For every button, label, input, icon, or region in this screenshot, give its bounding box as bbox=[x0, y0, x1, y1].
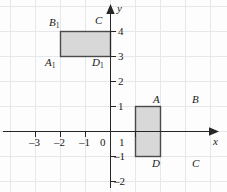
coordinate-plane-figure: y x –3 –2 –1 0 1 4 3 2 1 –1 –2 B1 C A1 D… bbox=[0, 0, 227, 192]
vertex-label-A1-subscript: 1 bbox=[52, 61, 56, 70]
vertex-label-A: A bbox=[153, 94, 160, 105]
vertex-label-D1-base: D bbox=[92, 56, 100, 68]
vertex-label-B: B bbox=[192, 94, 199, 105]
vertex-label-B1: B1 bbox=[49, 17, 59, 28]
y-tick-label-neg1: –1 bbox=[114, 151, 125, 162]
y-tick-label-pos4: 4 bbox=[118, 26, 124, 37]
vertex-label-B1-base: B bbox=[49, 16, 56, 28]
vertex-label-C-upper: C bbox=[95, 15, 102, 26]
y-tick-label-neg2: –2 bbox=[114, 176, 125, 187]
vertex-label-B1-subscript: 1 bbox=[56, 21, 60, 30]
vertex-label-A1: A1 bbox=[45, 57, 55, 68]
y-axis-label: y bbox=[117, 3, 122, 14]
vertex-label-D: D bbox=[152, 158, 160, 169]
rectangle-A1B1CD1 bbox=[61, 32, 111, 57]
x-axis-label: x bbox=[213, 136, 218, 147]
vertex-label-D1: D1 bbox=[92, 57, 104, 68]
vertex-label-C-lower: C bbox=[192, 158, 199, 169]
x-tick-label-zero: 0 bbox=[100, 137, 106, 148]
x-tick-label-neg1: –1 bbox=[79, 137, 90, 148]
y-tick-label-pos1: 1 bbox=[118, 101, 124, 112]
vertex-label-A1-base: A bbox=[45, 56, 52, 68]
x-tick-label-pos1: 1 bbox=[119, 137, 125, 148]
x-tick-label-neg3: –3 bbox=[29, 137, 40, 148]
y-tick-label-pos2: 2 bbox=[118, 76, 124, 87]
vertex-label-D1-subscript: 1 bbox=[100, 61, 104, 70]
y-tick-label-pos3: 3 bbox=[118, 51, 124, 62]
x-tick-label-neg2: –2 bbox=[54, 137, 65, 148]
